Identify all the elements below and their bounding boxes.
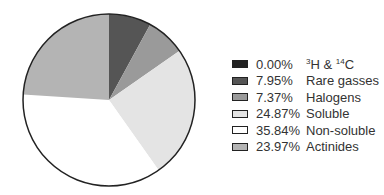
legend-swatch bbox=[232, 126, 248, 134]
legend-swatch bbox=[232, 93, 248, 101]
legend-swatch bbox=[232, 60, 248, 68]
legend-item-actinides: 23.97% Actinides bbox=[232, 139, 379, 156]
pie-slice-actinides bbox=[23, 14, 109, 100]
legend-item-soluble: 24.87% Soluble bbox=[232, 106, 379, 123]
legend-label: Actinides bbox=[306, 139, 359, 154]
legend-percent: 7.95% bbox=[256, 73, 302, 88]
legend-label: Soluble bbox=[306, 106, 349, 121]
legend-label: Rare gasses bbox=[306, 73, 379, 88]
legend-swatch bbox=[232, 77, 248, 85]
legend-label: 3H & 14C bbox=[306, 57, 354, 72]
legend-percent: 35.84% bbox=[256, 123, 302, 138]
legend-percent: 23.97% bbox=[256, 139, 302, 154]
legend-swatch bbox=[232, 110, 248, 118]
legend-percent: 24.87% bbox=[256, 106, 302, 121]
legend-item-halogens: 7.37% Halogens bbox=[232, 89, 379, 106]
legend-swatch bbox=[232, 143, 248, 151]
legend-item-non-soluble: 35.84% Non-soluble bbox=[232, 122, 379, 139]
legend-item-rare-gasses: 7.95% Rare gasses bbox=[232, 73, 379, 90]
legend-percent: 7.37% bbox=[256, 90, 302, 105]
pie-chart bbox=[0, 0, 220, 195]
legend-label: Halogens bbox=[306, 90, 361, 105]
legend: 0.00% 3H & 14C 7.95% Rare gasses 7.37% H… bbox=[232, 56, 379, 155]
legend-label: Non-soluble bbox=[306, 123, 375, 138]
legend-percent: 0.00% bbox=[256, 57, 302, 72]
legend-item-isotopes: 0.00% 3H & 14C bbox=[232, 56, 379, 73]
